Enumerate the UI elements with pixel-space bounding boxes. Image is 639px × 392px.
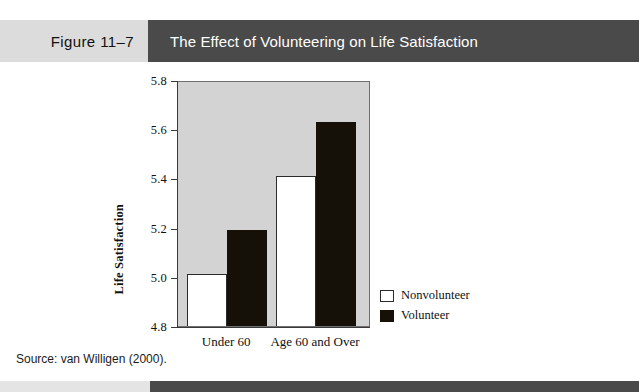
y-tick-label: 5.4 (151, 172, 167, 187)
legend-item-nonvolunteer: Nonvolunteer (380, 287, 470, 304)
legend-swatch-volunteer-icon (380, 310, 394, 322)
figure-header-band: Figure 11–7 The Effect of Volunteering o… (0, 20, 639, 62)
legend-swatch-nonvolunteer-icon (380, 290, 394, 302)
source-note: Source: van Willigen (2000). (16, 352, 167, 366)
figure-number-label: Figure 11–7 (51, 33, 134, 50)
x-axis-line (177, 327, 370, 328)
y-axis-line (177, 81, 178, 327)
x-tick-label: Under 60 (202, 334, 251, 350)
bar-volunteer-age-60-and-over (316, 122, 356, 326)
legend-item-volunteer: Volunteer (380, 307, 470, 324)
figure-number-band: Figure 11–7 (0, 20, 148, 62)
footer-left-band (0, 381, 150, 392)
y-tick-mark (171, 229, 177, 230)
footer-right-band (150, 381, 639, 392)
y-tick-mark (171, 179, 177, 180)
y-tick-mark (171, 130, 177, 131)
y-tick-mark (171, 278, 177, 279)
y-tick-mark (171, 81, 177, 82)
bar-nonvolunteer-age-60-and-over (276, 176, 316, 326)
y-axis-title: Life Satisfaction (112, 204, 134, 295)
plot-area (177, 81, 370, 327)
y-tick-label: 5.0 (151, 270, 167, 285)
y-tick-label: 5.2 (151, 221, 167, 236)
y-tick-label: 5.6 (151, 123, 167, 138)
figure-title-label: The Effect of Volunteering on Life Satis… (170, 33, 478, 50)
figure-title-band: The Effect of Volunteering on Life Satis… (148, 20, 639, 62)
y-tick-label: 5.8 (151, 74, 167, 89)
legend-label-nonvolunteer: Nonvolunteer (401, 288, 470, 303)
bar-chart: Life Satisfaction 4.85.05.25.45.65.8 Und… (0, 62, 639, 352)
bar-volunteer-under-60 (227, 230, 267, 326)
bar-nonvolunteer-under-60 (187, 274, 227, 326)
chart-legend: Nonvolunteer Volunteer (380, 287, 470, 327)
y-tick-label: 4.8 (151, 320, 167, 335)
y-tick-mark (171, 327, 177, 328)
figure-footer-band (0, 381, 639, 392)
x-tick-label: Age 60 and Over (270, 334, 359, 350)
legend-label-volunteer: Volunteer (401, 308, 449, 323)
